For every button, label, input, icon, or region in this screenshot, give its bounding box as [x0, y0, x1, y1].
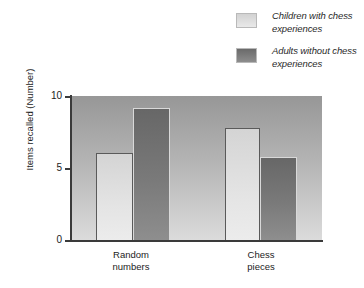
- y-axis-title: Items recalled (Number): [24, 40, 35, 200]
- y-tick-label-0: 0: [40, 234, 62, 245]
- x-category-label-random-line1: Random: [113, 249, 149, 260]
- x-axis-line: [70, 240, 323, 242]
- bar-adults-random: [133, 108, 170, 241]
- y-tick-label-5: 5: [40, 162, 62, 173]
- bar-children-chess: [225, 128, 260, 241]
- x-category-label-chess-line1: Chess: [248, 249, 275, 260]
- bar-chart: Items recalled (Number) 10 5 0 Random nu…: [0, 0, 364, 288]
- y-tick-0: [65, 240, 71, 242]
- chart-screenshot: Children with chess experiences Adults w…: [0, 0, 364, 288]
- y-tick-5: [65, 168, 71, 170]
- y-tick-label-10: 10: [40, 90, 62, 101]
- x-category-label-chess-line2: pieces: [247, 261, 274, 272]
- y-tick-10: [65, 96, 71, 98]
- x-category-label-random: Random numbers: [86, 249, 176, 273]
- bar-adults-chess: [260, 157, 297, 241]
- plot-area: [72, 96, 322, 241]
- bar-children-random: [96, 153, 133, 241]
- x-category-label-chess: Chess pieces: [216, 249, 306, 273]
- x-category-label-random-line2: numbers: [113, 261, 150, 272]
